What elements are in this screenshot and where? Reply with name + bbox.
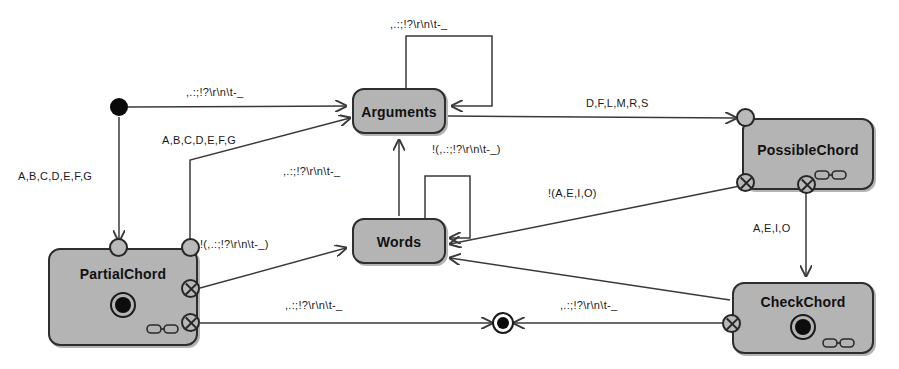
checkchord-final-dot xyxy=(795,319,811,335)
state-label-partialchord: PartialChord xyxy=(50,266,196,282)
state-label-checkchord: CheckChord xyxy=(734,294,872,310)
edge-label-arguments-to-possible: D,F,L,M,R,S xyxy=(586,97,649,109)
edge-check-to-words xyxy=(450,258,730,300)
edge-label-partial-to-arguments: A,B,C,D,E,F,G xyxy=(162,134,236,146)
port-possiblechord-in-top[interactable] xyxy=(736,108,755,127)
partialchord-final-dot xyxy=(115,297,131,313)
state-node-arguments[interactable]: Arguments xyxy=(352,88,446,134)
edge-label-words-self-loop: !(,.:;!?\r\n\t-_) xyxy=(432,143,501,155)
port-partialchord-out-mid[interactable] xyxy=(181,279,200,298)
chain-link-icon-possiblechord xyxy=(814,168,848,182)
edge-label-partial-to-final: ,.:;!?\r\n\t-_ xyxy=(285,299,342,311)
state-label-arguments: Arguments xyxy=(354,104,444,120)
edge-label-partial-to-words: !(,.:;!?\r\n\t-_) xyxy=(200,238,269,250)
port-possiblechord-out-left[interactable] xyxy=(736,173,755,192)
edge-arguments-to-possible xyxy=(448,116,736,118)
port-partialchord-out-low[interactable] xyxy=(181,313,200,332)
state-label-possiblechord: PossibleChord xyxy=(744,142,872,158)
port-partialchord-in-top[interactable] xyxy=(109,238,128,257)
edge-partial-to-words xyxy=(200,248,346,288)
edge-label-arguments-self-loop: ,.:;!?\r\n\t-_ xyxy=(390,18,447,30)
initial-state-marker xyxy=(110,98,128,116)
final-state-marker-dot xyxy=(497,317,509,329)
edge-start-to-arguments xyxy=(128,106,346,107)
port-partialchord-in-right-top[interactable] xyxy=(181,238,200,257)
chain-link-icon-checkchord xyxy=(822,336,856,350)
edge-label-words-to-arguments: ,.:;!?\r\n\t-_ xyxy=(283,165,340,177)
state-diagram-canvas: Arguments Words PartialChord PossibleCho… xyxy=(0,0,899,369)
edge-label-check-to-final: ,.:;!?\r\n\t-_ xyxy=(560,299,617,311)
state-node-partialchord[interactable]: PartialChord xyxy=(48,248,198,346)
state-node-checkchord[interactable]: CheckChord xyxy=(732,282,874,354)
chain-link-icon-partialchord xyxy=(146,322,180,336)
edge-label-start-to-arguments: ,.:;!?\r\n\t-_ xyxy=(186,86,243,98)
edge-label-start-to-partialchord: A,B,C,D,E,F,G xyxy=(18,170,92,182)
port-checkchord-out-left[interactable] xyxy=(722,314,741,333)
state-node-words[interactable]: Words xyxy=(352,218,446,264)
state-label-words: Words xyxy=(354,234,444,250)
port-possiblechord-out-bottom[interactable] xyxy=(797,175,816,194)
edge-label-possible-to-check: A,E,I,O xyxy=(753,222,791,234)
edge-label-possible-to-words: !(A,E,I,O) xyxy=(548,187,597,199)
